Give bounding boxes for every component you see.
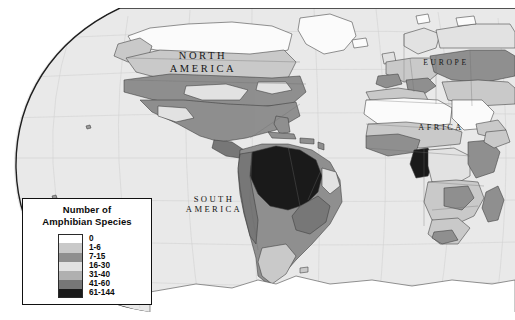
region-falklands [300, 267, 308, 273]
legend-title-line2: Amphibian Species [42, 216, 131, 227]
region-iceland [352, 38, 368, 48]
region-hispaniola [300, 138, 314, 144]
legend-label: 0 [89, 235, 94, 243]
legend-swatch [58, 234, 83, 243]
legend-label: 1-6 [89, 244, 101, 252]
legend-label: 41-60 [89, 280, 110, 288]
region-svalbard [416, 14, 430, 24]
legend-swatch [58, 253, 83, 262]
legend-swatch [58, 243, 83, 252]
legend-swatch [58, 271, 83, 280]
legend-row: 0 [58, 234, 151, 243]
region-novaya-zemlya [456, 16, 476, 26]
legend-items: 01-67-1516-3031-4041-6061-144 [23, 234, 151, 298]
legend-swatch [58, 289, 83, 298]
legend-label: 7-15 [89, 253, 105, 261]
legend-row: 61-144 [58, 289, 151, 298]
amphibian-species-world-map-figure: NORTH AMERICA SOUTH AMERICA EUROPE AFRIC… [0, 0, 515, 320]
legend-label: 61-144 [89, 289, 115, 297]
legend-title: Number of Amphibian Species [23, 204, 151, 228]
legend-title-line1: Number of [63, 204, 111, 215]
legend-swatch [58, 262, 83, 271]
region-hawaii-dot [86, 125, 91, 129]
legend-label: 16-30 [89, 262, 110, 270]
legend-swatch [58, 280, 83, 289]
legend-label: 31-40 [89, 271, 110, 279]
map-legend: Number of Amphibian Species 01-67-1516-3… [22, 198, 152, 305]
